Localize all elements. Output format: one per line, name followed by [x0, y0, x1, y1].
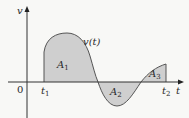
- x-axis-arrow-icon: [178, 80, 184, 85]
- y-axis-arrow-icon: [25, 6, 30, 12]
- y-axis-label: v: [17, 5, 23, 16]
- t2-label: t2: [162, 85, 171, 98]
- curve-label: v(t): [83, 36, 101, 47]
- t1-label: t1: [41, 85, 50, 98]
- x-axis-label: t: [176, 85, 181, 96]
- velocity-area-diagram: v t 0 v(t) t1 t2 A1 A2 A3: [0, 0, 189, 118]
- origin-label: 0: [17, 84, 23, 95]
